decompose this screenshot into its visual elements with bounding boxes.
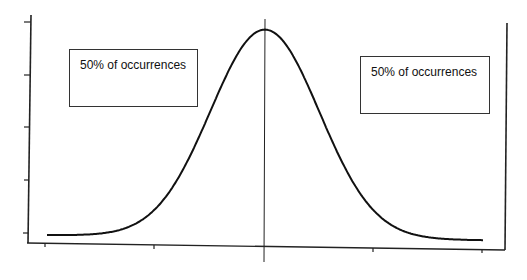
y-axis-right: [505, 23, 507, 250]
annotation-right-text: 50% of occurrences: [371, 65, 477, 79]
y-axis-left: [28, 15, 31, 243]
mean-line: [264, 19, 265, 262]
annotation-box-left: 50% of occurrences: [69, 49, 198, 107]
x-axis: [27, 243, 505, 250]
annotation-box-right: 50% of occurrences: [360, 56, 490, 114]
bell-curve-chart: [0, 0, 527, 280]
annotation-left-text: 50% of occurrences: [80, 58, 186, 72]
